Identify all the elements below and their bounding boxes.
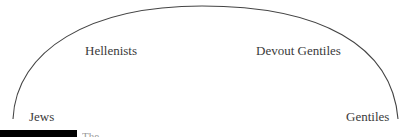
caption-text: The bbox=[82, 131, 202, 137]
label-hellenists: Hellenists bbox=[85, 43, 137, 59]
label-devout-gentiles: Devout Gentiles bbox=[256, 43, 341, 59]
arc-diagram bbox=[0, 0, 405, 137]
label-gentiles: Gentiles bbox=[346, 109, 389, 125]
caption-bar bbox=[0, 130, 77, 137]
label-jews: Jews bbox=[29, 109, 54, 125]
spectrum-arc bbox=[13, 6, 398, 119]
